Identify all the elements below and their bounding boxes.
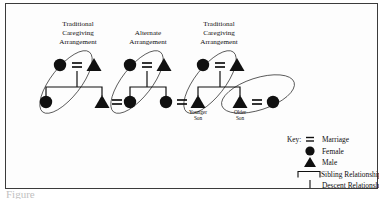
- family-unit-2: [124, 58, 172, 108]
- older-son-label-line-2: Son: [236, 115, 245, 121]
- female-symbol: [54, 59, 66, 71]
- key-title: Key:: [287, 135, 301, 144]
- child-female-symbol-left: [124, 96, 136, 108]
- male-symbol: [87, 58, 102, 71]
- group-label-3-line-2: Caregiving: [203, 29, 235, 37]
- sibling-bracket: [130, 87, 166, 96]
- marriage-icon: [306, 138, 314, 142]
- group-label-3-line-1: Traditional: [203, 20, 234, 28]
- marriage-symbol: [72, 63, 82, 67]
- key-label-marriage: Marriage: [322, 135, 350, 144]
- child-female-symbol: [40, 96, 52, 108]
- key-row-sibling: Sibling Relationship: [298, 170, 379, 179]
- key-row-female: Female: [305, 146, 344, 155]
- group-label-1-line-1: Traditional: [62, 20, 93, 28]
- kinship-diagram: Traditional Caregiving Arrangement Alter…: [6, 4, 379, 190]
- female-symbol: [197, 59, 209, 71]
- male-symbol: [157, 58, 172, 71]
- marriage-symbol: [215, 63, 225, 67]
- group-ellipse-4: [217, 67, 299, 121]
- marriage-symbol-3-4: [252, 100, 262, 104]
- female-symbol: [124, 59, 136, 71]
- sibling-bracket: [46, 87, 102, 96]
- rightmost-female-symbol: [267, 96, 279, 108]
- group-label-1-line-3: Arrangement: [59, 38, 96, 46]
- key-row-marriage: Marriage: [306, 135, 350, 144]
- marriage-symbol-1-2: [112, 100, 122, 104]
- child-male-symbol: [95, 95, 110, 108]
- family-unit-1: [40, 58, 110, 108]
- key-label-male: Male: [322, 158, 338, 167]
- group-labels: Traditional Caregiving Arrangement Alter…: [59, 20, 237, 46]
- grouping-ellipses: [31, 43, 299, 121]
- sibling-bracket-icon: [298, 172, 320, 178]
- figure-caption-strip: Figure: [0, 191, 391, 199]
- group-label-1-line-2: Caregiving: [62, 29, 94, 37]
- figure-caption: Figure: [6, 191, 35, 199]
- figure-frame: Traditional Caregiving Arrangement Alter…: [5, 3, 378, 189]
- key-label-female: Female: [322, 147, 344, 156]
- key-row-descent: Descent Relationship: [310, 180, 379, 190]
- child-female-symbol-right: [160, 96, 172, 108]
- younger-son-symbol: [191, 95, 206, 108]
- marriage-symbol-2-3: [177, 100, 187, 104]
- group-label-3-line-3: Arrangement: [200, 38, 237, 46]
- group-label-2-line-1: Alternate: [135, 29, 161, 37]
- group-label-2-line-2: Arrangement: [129, 38, 166, 46]
- group-ellipse-2: [102, 43, 172, 121]
- group-ellipse-1: [31, 43, 101, 121]
- key-label-sibling: Sibling Relationship: [321, 170, 379, 179]
- key-legend: Key: Marriage Female Male: [287, 135, 379, 190]
- key-row-male: Male: [304, 157, 338, 167]
- key-label-descent: Descent Relationship: [322, 181, 379, 190]
- marriage-symbol: [142, 63, 152, 67]
- female-icon: [305, 146, 314, 155]
- male-icon: [304, 157, 316, 167]
- older-son-symbol: [233, 95, 248, 108]
- male-symbol: [230, 58, 245, 71]
- family-unit-3: Younger Son Older Son: [189, 58, 248, 121]
- younger-son-label-line-2: Son: [194, 115, 203, 121]
